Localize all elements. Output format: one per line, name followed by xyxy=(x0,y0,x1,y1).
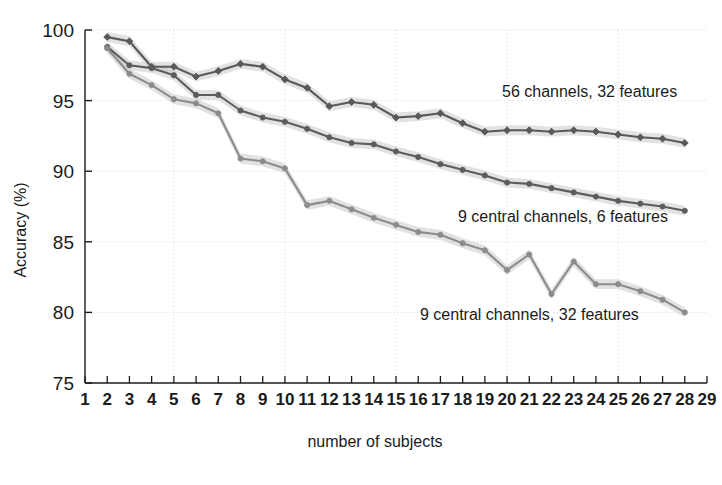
x-tick-label: 1 xyxy=(80,390,89,409)
x-tick-label: 14 xyxy=(364,390,383,409)
x-tick-label: 21 xyxy=(520,390,539,409)
x-tick-label: 29 xyxy=(698,390,717,409)
x-tick-label: 5 xyxy=(169,390,178,409)
y-tick-label: 95 xyxy=(53,91,74,112)
x-tick-label: 24 xyxy=(586,390,605,409)
y-tick-label: 90 xyxy=(53,161,74,182)
chart-svg: 7580859095100 12345678910111213141516171… xyxy=(0,0,722,485)
x-tick-label: 18 xyxy=(453,390,472,409)
y-tick-label: 100 xyxy=(42,20,74,41)
y-tick-label: 80 xyxy=(53,302,74,323)
x-tick-label: 9 xyxy=(258,390,267,409)
x-tick-label: 23 xyxy=(564,390,583,409)
x-tick-label: 28 xyxy=(675,390,694,409)
accuracy-vs-subjects-chart: 7580859095100 12345678910111213141516171… xyxy=(0,0,722,485)
x-axis-title: number of subjects xyxy=(307,433,442,450)
x-tick-label: 10 xyxy=(275,390,294,409)
x-tick-label: 4 xyxy=(147,390,157,409)
x-tick-label: 8 xyxy=(236,390,245,409)
x-tick-label: 12 xyxy=(320,390,339,409)
x-tick-label: 26 xyxy=(631,390,650,409)
x-tick-label: 11 xyxy=(298,390,316,409)
x-tick-label: 3 xyxy=(125,390,134,409)
x-tick-label: 19 xyxy=(475,390,494,409)
series-annotation: 56 channels, 32 features xyxy=(502,83,677,100)
x-tick-label: 7 xyxy=(214,390,223,409)
y-tick-label: 75 xyxy=(53,373,74,394)
series-annotation: 9 central channels, 6 features xyxy=(458,208,668,225)
x-axis-tick-labels: 1234567891011121314151617181920212223242… xyxy=(80,390,716,409)
x-tick-label: 6 xyxy=(191,390,200,409)
x-tick-label: 16 xyxy=(409,390,428,409)
x-tick-label: 17 xyxy=(431,390,450,409)
y-axis-title: Accuracy (%) xyxy=(12,182,29,277)
x-tick-label: 22 xyxy=(542,390,561,409)
x-tick-label: 20 xyxy=(498,390,517,409)
x-tick-label: 25 xyxy=(609,390,628,409)
x-tick-label: 27 xyxy=(653,390,672,409)
x-tick-label: 15 xyxy=(387,390,406,409)
y-tick-label: 85 xyxy=(53,232,74,253)
x-tick-label: 2 xyxy=(102,390,111,409)
x-tick-label: 13 xyxy=(342,390,361,409)
series-annotation: 9 central channels, 32 features xyxy=(420,306,639,323)
chart-background xyxy=(0,0,722,485)
